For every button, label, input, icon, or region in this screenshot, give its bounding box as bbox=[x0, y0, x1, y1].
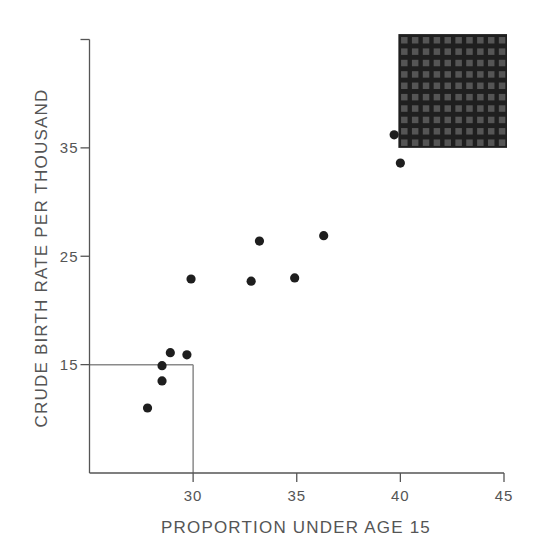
grid-cell bbox=[423, 48, 430, 55]
grid-cell bbox=[499, 83, 506, 90]
grid-cell bbox=[455, 83, 462, 90]
grid-cell bbox=[434, 105, 441, 112]
grid-cell bbox=[488, 139, 495, 146]
grid-cell bbox=[445, 71, 452, 78]
grid-cell bbox=[455, 48, 462, 55]
grid-cell bbox=[401, 48, 408, 55]
grid-cell bbox=[477, 105, 484, 112]
grid-cell bbox=[445, 60, 452, 67]
grid-cell bbox=[455, 94, 462, 101]
grid-cell bbox=[445, 139, 452, 146]
grid-cell bbox=[401, 83, 408, 90]
grid-cell bbox=[488, 48, 495, 55]
data-point bbox=[255, 236, 264, 245]
grid-cell bbox=[412, 83, 419, 90]
grid-cell bbox=[455, 60, 462, 67]
grid-cell bbox=[477, 37, 484, 44]
grid-cell bbox=[488, 94, 495, 101]
grid-cell bbox=[423, 60, 430, 67]
grid-cell bbox=[488, 71, 495, 78]
grid-cell bbox=[455, 105, 462, 112]
grid-cell bbox=[488, 37, 495, 44]
grid-cell bbox=[401, 37, 408, 44]
data-point bbox=[166, 348, 175, 357]
grid-cell bbox=[434, 48, 441, 55]
grid-cell bbox=[477, 48, 484, 55]
grid-cell bbox=[455, 71, 462, 78]
grid-cell bbox=[412, 37, 419, 44]
grid-cell bbox=[466, 83, 473, 90]
data-point bbox=[143, 403, 152, 412]
grid-cell bbox=[466, 48, 473, 55]
grid-cell bbox=[412, 105, 419, 112]
data-point bbox=[396, 158, 405, 167]
grid-cell bbox=[412, 117, 419, 124]
grid-cell bbox=[445, 37, 452, 44]
x-tick-label: 35 bbox=[287, 487, 306, 504]
grid-cell bbox=[434, 83, 441, 90]
grid-cell bbox=[434, 139, 441, 146]
grid-cell bbox=[499, 139, 506, 146]
reference-lines bbox=[90, 365, 194, 473]
grid-cell bbox=[401, 128, 408, 135]
grid-cell bbox=[423, 71, 430, 78]
data-point bbox=[157, 376, 166, 385]
grid-cell bbox=[477, 128, 484, 135]
grid-cell bbox=[412, 139, 419, 146]
grid-cell bbox=[499, 128, 506, 135]
grid-cell bbox=[445, 94, 452, 101]
grid-cell bbox=[477, 71, 484, 78]
grid-cell bbox=[455, 37, 462, 44]
grid-cell bbox=[401, 139, 408, 146]
grid-cell bbox=[423, 139, 430, 146]
y-tick-label: 35 bbox=[60, 139, 79, 156]
grid-cell bbox=[445, 48, 452, 55]
grid-cell bbox=[488, 83, 495, 90]
grid-cell bbox=[488, 60, 495, 67]
grid-cell bbox=[423, 105, 430, 112]
grid-cell bbox=[499, 37, 506, 44]
grid-cell bbox=[499, 94, 506, 101]
grid-cell bbox=[466, 60, 473, 67]
y-axis-title: CRUDE BIRTH RATE PER THOUSAND bbox=[32, 89, 51, 428]
grid-cell bbox=[434, 37, 441, 44]
data-point bbox=[186, 274, 195, 283]
grid-cell bbox=[445, 105, 452, 112]
grid-cell bbox=[434, 60, 441, 67]
grid-cell bbox=[412, 48, 419, 55]
grid-cell bbox=[477, 60, 484, 67]
grid-cell bbox=[466, 139, 473, 146]
scatter-chart: 30354045152535 PROPORTION UNDER AGE 15 C… bbox=[0, 0, 537, 552]
x-tick-label: 30 bbox=[184, 487, 203, 504]
grid-cell bbox=[412, 94, 419, 101]
grid-cell bbox=[434, 71, 441, 78]
grid-cell bbox=[477, 117, 484, 124]
grid-cell bbox=[423, 83, 430, 90]
grid-cell bbox=[412, 60, 419, 67]
y-tick-label: 15 bbox=[60, 356, 79, 373]
grid-cell bbox=[499, 117, 506, 124]
grid-cell bbox=[434, 117, 441, 124]
y-tick-label: 25 bbox=[60, 248, 79, 265]
grid-cell bbox=[401, 105, 408, 112]
x-tick-label: 40 bbox=[391, 487, 410, 504]
data-point bbox=[319, 231, 328, 240]
grid-cell bbox=[455, 117, 462, 124]
data-point bbox=[157, 361, 166, 370]
grid-cell bbox=[423, 94, 430, 101]
grid-cell bbox=[466, 71, 473, 78]
grid-cell bbox=[445, 128, 452, 135]
grid-cell bbox=[466, 37, 473, 44]
grid-cell bbox=[466, 105, 473, 112]
grid-cell bbox=[423, 37, 430, 44]
grid-cell bbox=[499, 48, 506, 55]
grid-cell bbox=[466, 128, 473, 135]
data-point bbox=[182, 350, 191, 359]
data-point bbox=[390, 130, 399, 139]
grid-cell bbox=[477, 139, 484, 146]
x-tick-label: 45 bbox=[495, 487, 514, 504]
grid-cell bbox=[455, 128, 462, 135]
grid-cell bbox=[412, 71, 419, 78]
grid-cell bbox=[434, 94, 441, 101]
x-axis-title: PROPORTION UNDER AGE 15 bbox=[161, 518, 431, 537]
